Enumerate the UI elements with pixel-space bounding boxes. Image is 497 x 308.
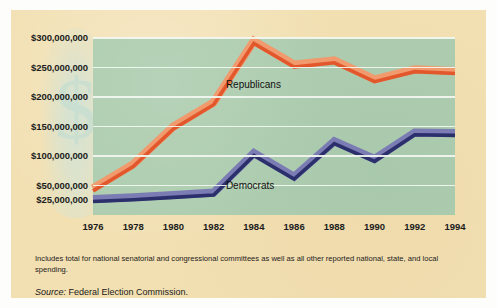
x-axis-tick-label: 1988	[324, 221, 345, 232]
y-axis-tick-label: $250,000,000	[31, 62, 88, 73]
y-axis-tick-label: $100,000,000	[31, 150, 88, 161]
y-axis-tick-label: $25,000,000	[36, 194, 88, 205]
source-line: Source: Federal Election Commission.	[35, 287, 453, 297]
x-axis-tick-label: 1986	[284, 221, 305, 232]
x-axis-tick-label: 1984	[243, 221, 264, 232]
source-value: Federal Election Commission.	[69, 287, 189, 297]
gridline	[93, 96, 455, 98]
y-axis-tick-label: $300,000,000	[31, 32, 88, 43]
gridline	[93, 67, 455, 69]
series-label-republicans: Republicans	[226, 79, 281, 90]
series-label-democrats: Democrats	[226, 180, 274, 191]
gridline	[93, 126, 455, 128]
x-axis-tick-label: 1978	[123, 221, 144, 232]
x-axis-tick-label: 1980	[163, 221, 184, 232]
chart-figure: $25,000,000$50,000,000$100,000,000$150,0…	[0, 0, 497, 308]
y-axis-tick-label: $200,000,000	[31, 91, 88, 102]
x-axis-tick-label: 1982	[203, 221, 224, 232]
x-axis-tick-label: 1976	[82, 221, 103, 232]
y-axis-tick-label: $50,000,000	[36, 180, 88, 191]
x-axis-tick-label: 1994	[444, 221, 465, 232]
notes-block: Includes total for national senatorial a…	[35, 253, 453, 297]
source-label: Source:	[35, 287, 66, 297]
footnote-text: Includes total for national senatorial a…	[35, 253, 453, 275]
gridline	[93, 155, 455, 157]
series-line-democrats	[93, 135, 455, 202]
y-axis-tick-label: $150,000,000	[31, 121, 88, 132]
x-axis: 1976197819801982198419861988199019921994	[93, 221, 455, 237]
gridline	[93, 37, 455, 39]
x-axis-tick-label: 1992	[404, 221, 425, 232]
x-axis-tick-label: 1990	[364, 221, 385, 232]
